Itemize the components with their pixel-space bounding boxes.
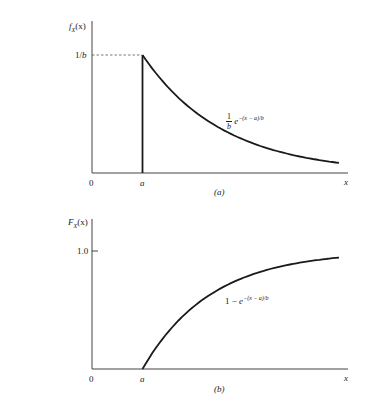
panel-a-xaxis-end-label: x [344, 178, 348, 187]
panel-a-axes [92, 21, 348, 173]
panel-a-caption: (a) [214, 188, 225, 197]
panel-b-cdf-curve [143, 258, 340, 369]
panel-a-curve-annotation: 1b e−(x − a)/b [226, 112, 264, 131]
panel-b-curve-annotation: 1 − e−(x − a)/b [225, 295, 269, 306]
panel-a-xtick-a: a [140, 179, 145, 188]
panel-b-axes [92, 219, 348, 369]
panel-a-pdf-curve [143, 55, 340, 163]
chart-canvas [0, 0, 369, 414]
panel-b-xaxis-end-label: x [344, 374, 348, 383]
panel-b-xtick-a: a [140, 375, 145, 384]
panel-b-xtick-0: 0 [89, 375, 94, 384]
panel-a-ylabel: fX(x) [69, 22, 86, 33]
panel-b-ylabel: FX(x) [68, 218, 88, 229]
panel-a-xtick-0: 0 [89, 179, 94, 188]
panel-b-ytick-label: 1.0 [77, 247, 88, 256]
panel-b-caption: (b) [214, 385, 225, 394]
panel-a-ytick-label: 1/b [75, 51, 87, 60]
